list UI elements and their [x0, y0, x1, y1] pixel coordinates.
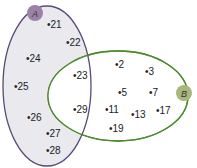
element-22: •22: [66, 37, 81, 48]
set-b-label: B: [181, 89, 187, 99]
element-28: •28: [46, 145, 61, 156]
element-19: •19: [109, 123, 124, 134]
set-b-badge: B: [176, 85, 192, 101]
set-a-label: A: [31, 9, 38, 19]
element-27: •27: [46, 128, 61, 139]
element-17: •17: [156, 105, 171, 116]
element-3: •3: [145, 66, 155, 77]
element-5: •5: [118, 87, 128, 98]
element-23: •23: [73, 70, 88, 81]
set-a-badge: A: [27, 5, 43, 21]
element-7: •7: [149, 87, 159, 98]
element-24: •24: [26, 53, 41, 64]
element-26: •26: [27, 112, 42, 123]
element-29: •29: [73, 104, 88, 115]
venn-diagram: A B •21 •22 •24 •25 •26 •27 •28 •23 •29 …: [0, 0, 197, 168]
element-25: •25: [14, 81, 29, 92]
element-2: •2: [115, 59, 125, 70]
element-21: •21: [47, 19, 62, 30]
element-13: •13: [131, 109, 146, 120]
element-11: •11: [105, 104, 119, 115]
